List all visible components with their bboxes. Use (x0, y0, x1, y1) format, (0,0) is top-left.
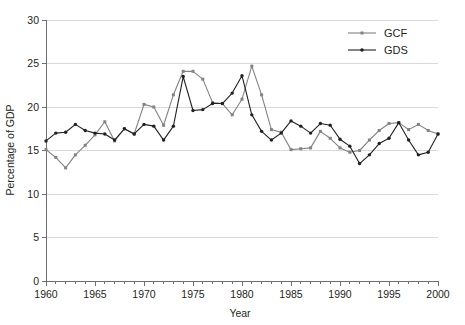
data-point-marker (192, 70, 195, 73)
data-point-marker (54, 156, 57, 159)
series-line-gcf (46, 66, 438, 168)
data-point-marker (397, 121, 400, 124)
data-point-marker (299, 124, 302, 127)
y-tick-label: 0 (33, 275, 39, 287)
data-point-marker (319, 130, 322, 133)
data-point-marker (289, 119, 292, 122)
x-axis-tick-labels: 196019651970197519801985199019952000 (34, 288, 450, 300)
data-point-marker (280, 131, 283, 134)
data-point-marker (152, 106, 155, 109)
y-tick-label: 25 (27, 57, 39, 69)
y-tick-label: 10 (27, 188, 39, 200)
data-series-layer (44, 65, 439, 170)
legend-marker (361, 32, 364, 35)
data-point-marker (290, 148, 293, 151)
data-point-marker (250, 65, 253, 68)
data-point-marker (407, 138, 410, 141)
y-axis-title: Percentage of GDP (4, 104, 16, 195)
data-point-marker (172, 93, 175, 96)
series-gds (44, 74, 439, 165)
x-tick-label: 2000 (426, 288, 450, 300)
data-point-marker (152, 124, 155, 127)
data-point-marker (319, 122, 322, 125)
data-point-marker (123, 127, 126, 130)
series-gcf (45, 65, 440, 170)
line-chart: 196019651970197519801985199019952000 051… (0, 0, 465, 325)
data-point-marker (93, 131, 96, 134)
data-point-marker (358, 149, 361, 152)
y-axis-tick-labels: 051015202530 (27, 14, 39, 287)
data-point-marker (270, 128, 273, 131)
data-point-marker (250, 113, 253, 116)
data-point-marker (74, 153, 77, 156)
data-point-marker (368, 139, 371, 142)
x-tick-label: 1980 (230, 288, 254, 300)
data-point-marker (427, 151, 430, 154)
y-tick-label: 30 (27, 14, 39, 26)
legend-label-gds: GDS (384, 44, 408, 56)
data-point-marker (201, 78, 204, 81)
data-point-marker (339, 146, 342, 149)
data-point-marker (299, 147, 302, 150)
data-point-marker (348, 151, 351, 154)
y-tick-label: 20 (27, 101, 39, 113)
data-point-marker (241, 98, 244, 101)
data-point-marker (348, 144, 351, 147)
data-point-marker (407, 128, 410, 131)
chart-legend: GCFGDS (348, 27, 408, 56)
data-point-marker (45, 148, 48, 151)
data-point-marker (143, 103, 146, 106)
data-point-marker (182, 75, 185, 78)
data-point-marker (211, 102, 214, 105)
data-point-marker (103, 132, 106, 135)
y-tick-label: 15 (27, 144, 39, 156)
data-point-marker (378, 129, 381, 132)
data-point-marker (387, 137, 390, 140)
data-point-marker (201, 108, 204, 111)
legend-item-gds[interactable]: GDS (348, 44, 408, 56)
data-point-marker (309, 146, 312, 149)
data-point-marker (260, 93, 263, 96)
x-tick-label: 1975 (181, 288, 205, 300)
data-point-marker (427, 129, 430, 132)
data-point-marker (240, 74, 243, 77)
data-point-marker (172, 124, 175, 127)
data-point-marker (44, 139, 47, 142)
data-point-marker (260, 130, 263, 133)
data-point-marker (329, 137, 332, 140)
data-point-marker (329, 124, 332, 127)
data-point-marker (417, 123, 420, 126)
x-axis-ticks (46, 281, 438, 286)
x-tick-label: 1995 (377, 288, 401, 300)
x-tick-label: 1970 (132, 288, 156, 300)
data-point-marker (338, 137, 341, 140)
legend-marker (360, 48, 364, 52)
data-point-marker (221, 102, 224, 105)
data-point-marker (309, 131, 312, 134)
data-point-marker (388, 122, 391, 125)
legend-item-gcf[interactable]: GCF (348, 27, 408, 39)
x-tick-label: 1960 (34, 288, 58, 300)
data-point-marker (270, 138, 273, 141)
legend-label-gcf: GCF (384, 27, 408, 39)
data-point-marker (358, 162, 361, 165)
data-point-marker (74, 123, 77, 126)
data-point-marker (417, 153, 420, 156)
x-tick-label: 1985 (279, 288, 303, 300)
data-point-marker (162, 138, 165, 141)
data-point-marker (142, 123, 145, 126)
data-point-marker (368, 153, 371, 156)
y-tick-label: 5 (33, 231, 39, 243)
data-point-marker (103, 120, 106, 123)
data-point-marker (436, 132, 439, 135)
data-point-marker (182, 70, 185, 73)
data-point-marker (54, 131, 57, 134)
data-point-marker (162, 124, 165, 127)
data-point-marker (231, 113, 234, 116)
data-point-marker (191, 109, 194, 112)
x-tick-label: 1965 (83, 288, 107, 300)
data-point-marker (231, 91, 234, 94)
data-point-marker (113, 138, 116, 141)
data-point-marker (84, 144, 87, 147)
x-tick-label: 1990 (328, 288, 352, 300)
